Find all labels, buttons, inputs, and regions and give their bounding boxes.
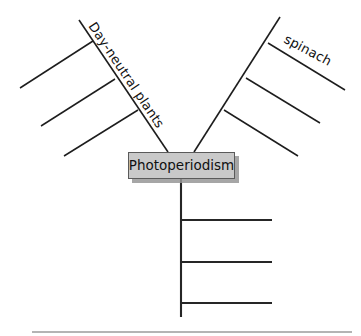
center-node[interactable]: Photoperiodism [128, 152, 235, 179]
right-sub-branch-3-line [224, 110, 298, 156]
right-branch-main-line [194, 17, 280, 152]
left-sub-branch-2-line [41, 79, 115, 126]
diagram-root: Day-neutral plants spinach Photoperiodis… [0, 0, 361, 336]
spinach-label: spinach [282, 31, 335, 68]
right-branch-group: spinach [194, 17, 345, 156]
left-branch-label: Day-neutral plants [86, 19, 168, 130]
left-branch-group: Day-neutral plants [20, 19, 168, 156]
right-sub-branch-2-line [246, 78, 320, 123]
left-sub-branch-1-line [20, 41, 93, 88]
left-sub-branch-3-line [64, 110, 138, 156]
bottom-branch-group [181, 179, 272, 317]
left-branch-main-line [79, 20, 168, 152]
center-node-label: Photoperiodism [129, 159, 234, 173]
